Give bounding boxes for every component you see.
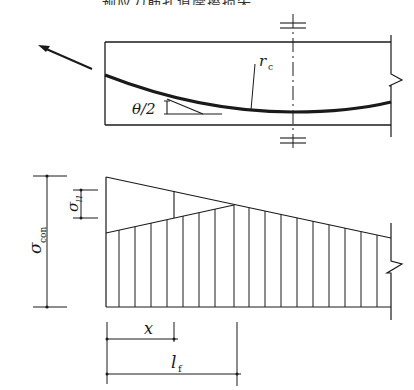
length-dimensions: x l f bbox=[106, 319, 242, 386]
dim-tick bbox=[45, 305, 48, 308]
dim-tick bbox=[45, 174, 48, 177]
sigma-l1-sub: l1 bbox=[75, 194, 84, 202]
tension-arrow-icon bbox=[38, 45, 50, 52]
prestress-loss-diagram: θ/2 r c bbox=[0, 0, 414, 390]
beam-elevation: θ/2 r c bbox=[38, 14, 402, 148]
tension-arrow-shaft bbox=[44, 48, 92, 69]
radius-leader bbox=[251, 64, 255, 110]
dim-tick bbox=[80, 217, 83, 220]
stress-distribution: σ con σ l1 bbox=[25, 174, 402, 320]
sigma-con-sub: con bbox=[38, 227, 48, 243]
dim-tick bbox=[236, 373, 239, 376]
radius-label-sub: c bbox=[268, 62, 273, 72]
lf-sub: f bbox=[178, 363, 183, 374]
x-label: x bbox=[144, 319, 153, 338]
sigma-l1-label-group: σ l1 bbox=[64, 194, 84, 212]
angle-label: θ/2 bbox=[132, 100, 156, 118]
break-line-icon bbox=[389, 35, 402, 137]
dim-tick bbox=[80, 189, 83, 192]
hatch-lines bbox=[119, 205, 377, 307]
dim-tick bbox=[106, 338, 109, 341]
sigma-con-label-group: σ con bbox=[25, 227, 48, 254]
radius-label: r bbox=[259, 52, 267, 70]
lf-label: l bbox=[171, 352, 176, 372]
dim-tick bbox=[173, 338, 176, 341]
dim-tick bbox=[106, 373, 109, 376]
